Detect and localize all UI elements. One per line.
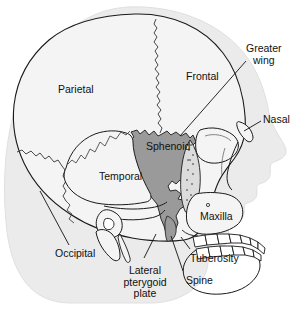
label-frontal: Frontal [186, 71, 219, 83]
meatus-inner-opening [104, 218, 114, 229]
label-tuberosity: Tuberosity [190, 253, 239, 265]
label-temporal: Temporal [99, 171, 142, 183]
label-sphenoid: Sphenoid [146, 141, 190, 153]
label-maxilla: Maxilla [200, 211, 233, 223]
label-spine: Spine [186, 275, 213, 287]
label-greater-wing: Greater wing [246, 43, 282, 66]
infraorbital-foramen [206, 203, 209, 206]
label-parietal: Parietal [58, 84, 94, 96]
label-lateral-pterygoid-plate: Lateral pterygoid plate [113, 265, 177, 300]
skull-anatomy-figure: Parietal Frontal Greater wing Nasal Sphe… [0, 0, 306, 313]
label-nasal: Nasal [263, 114, 290, 126]
label-occipital: Occipital [55, 248, 95, 260]
